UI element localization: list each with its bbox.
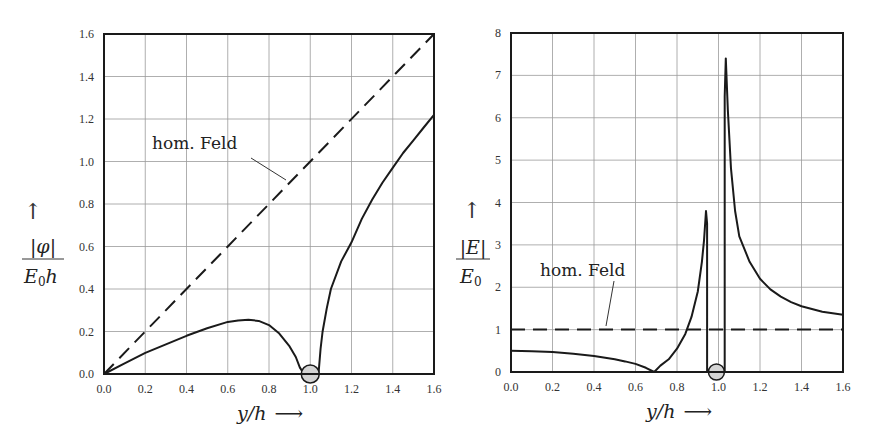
- efield-annotation-label: hom. Feld: [540, 260, 625, 280]
- phi-plot-x-ticks: 0.00.20.40.60.81.01.21.41.6: [97, 382, 442, 396]
- x-tick-label: 0.0: [504, 380, 519, 394]
- y-tick-label: 1.6: [79, 27, 94, 41]
- y-tick-label: 4: [495, 196, 501, 210]
- y-tick-label: 2: [495, 280, 501, 294]
- up-arrow-icon: ↑: [24, 199, 42, 224]
- curve-segment: [654, 211, 707, 372]
- y-tick-label: 0.8: [79, 197, 94, 211]
- x-tick-label: 0.4: [179, 382, 194, 396]
- x-tick-label: 0.2: [138, 382, 153, 396]
- y-tick-label: 0.0: [79, 367, 94, 381]
- x-tick-label: 1.4: [794, 380, 809, 394]
- efield-plot: 012345678 0.00.20.40.60.81.01.21.41.6 ho…: [456, 26, 851, 423]
- y-tick-label: 8: [495, 26, 501, 40]
- efield-annotation-leader: [606, 281, 614, 326]
- y-tick-label: 0.4: [79, 282, 94, 296]
- y-tick-label: 0.2: [79, 325, 94, 339]
- curve-segment: [725, 58, 843, 372]
- efield-ylabel-numerator: |E|: [460, 236, 487, 259]
- x-tick-label: 1.0: [303, 382, 318, 396]
- x-tick-label: 1.2: [753, 380, 768, 394]
- efield-plot-x-ticks: 0.00.20.40.60.81.01.21.41.6: [504, 380, 851, 394]
- phi-annotation-label: hom. Feld: [152, 133, 237, 153]
- x-tick-label: 0.6: [628, 380, 643, 394]
- x-tick-label: 1.0: [711, 380, 726, 394]
- x-tick-label: 0.0: [97, 382, 112, 396]
- curve-segment: [319, 115, 435, 374]
- y-tick-label: 1.2: [79, 112, 94, 126]
- y-tick-label: 0.6: [79, 240, 94, 254]
- up-arrow-icon: ↑: [463, 198, 481, 223]
- phi-ylabel-numerator: |φ|: [30, 235, 56, 258]
- x-tick-label: 0.6: [220, 382, 235, 396]
- x-tick-label: 0.8: [670, 380, 685, 394]
- phi-plot: 0.00.20.40.60.81.01.21.41.6 0.00.20.40.6…: [22, 27, 442, 425]
- x-tick-label: 1.6: [836, 380, 851, 394]
- phi-ylabel-denominator: E0h: [23, 265, 58, 289]
- efield-xlabel: y/h⟶: [645, 399, 712, 423]
- x-tick-label: 0.8: [262, 382, 277, 396]
- curve-segment: [104, 320, 304, 374]
- y-tick-label: 6: [495, 111, 501, 125]
- curve-segment: [511, 351, 654, 372]
- figure-canvas: 0.00.20.40.60.81.01.21.41.6 0.00.20.40.6…: [0, 0, 873, 446]
- y-tick-label: 1.0: [79, 155, 94, 169]
- efield-plot-y-ticks: 012345678: [495, 26, 501, 379]
- efield-plot-grid: [511, 33, 843, 372]
- x-tick-label: 1.2: [344, 382, 359, 396]
- phi-plot-y-ticks: 0.00.20.40.60.81.01.21.41.6: [79, 27, 94, 381]
- x-tick-label: 0.4: [587, 380, 602, 394]
- y-tick-label: 3: [495, 238, 501, 252]
- efield-ylabel-denominator: E0: [459, 265, 482, 289]
- x-tick-label: 0.2: [545, 380, 560, 394]
- y-tick-label: 1.4: [79, 70, 94, 84]
- y-tick-label: 7: [495, 68, 501, 82]
- x-tick-label: 1.4: [385, 382, 400, 396]
- y-tick-label: 5: [495, 153, 501, 167]
- y-tick-label: 0: [495, 365, 501, 379]
- phi-xlabel: y/h⟶: [236, 401, 303, 425]
- x-tick-label: 1.6: [427, 382, 442, 396]
- y-tick-label: 1: [495, 323, 501, 337]
